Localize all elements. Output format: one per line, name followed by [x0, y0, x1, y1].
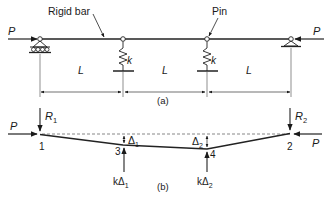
hinge-spring-2: k: [197, 37, 218, 71]
load-arrow-right: P: [295, 25, 324, 39]
load-label-right: P: [313, 25, 321, 37]
caption-a: (a): [157, 95, 169, 106]
hinge-pin-icon: [121, 37, 126, 42]
load-label-left-b: P: [10, 120, 18, 132]
pin-support-icon: [281, 37, 301, 47]
rigid-bar-label: Rigid bar: [48, 5, 91, 17]
span-label-3: L: [246, 64, 252, 76]
node-2-label: 2: [287, 141, 293, 152]
caption-b: (b): [157, 181, 169, 192]
load-label-right-b: P: [312, 137, 320, 149]
load-label-left: P: [8, 25, 16, 37]
spring-2-label: k: [211, 55, 217, 66]
spring-force-2-label: kΔ2: [197, 176, 213, 189]
delta-1-label: Δ1: [128, 134, 139, 148]
load-arrow-right-b: P: [294, 134, 322, 149]
reaction-1-label: R1: [45, 110, 57, 125]
spring-force-1-label: kΔ1: [113, 176, 129, 189]
reaction-r1: R1: [40, 108, 57, 131]
deflection-delta-2: Δ2: [192, 135, 207, 149]
hinge-spring-1: k: [113, 37, 134, 71]
reaction-r2: R2: [290, 108, 307, 130]
load-arrow-left: P: [8, 25, 37, 39]
span-label-1: L: [78, 64, 84, 76]
load-arrow-left-b: P: [8, 120, 37, 134]
node-4-label: 4: [210, 149, 216, 160]
delta-2-label: Δ2: [192, 135, 203, 149]
node-1-label: 1: [39, 141, 45, 152]
callout-pin: Pin: [209, 5, 227, 36]
spring-icon: [203, 48, 211, 65]
structural-diagram: P P k: [0, 0, 330, 202]
reaction-2-label: R2: [295, 110, 307, 125]
panel-b: P P R1 R2 1 3 4 2 Δ1 Δ2: [8, 108, 322, 192]
dimension-lines: L L L: [41, 64, 290, 92]
spring-icon: [119, 48, 127, 65]
pin-label: Pin: [212, 5, 227, 17]
panel-a: P P k: [8, 5, 324, 106]
node-3-label: 3: [115, 146, 121, 157]
deflected-bar: [40, 134, 290, 150]
callout-rigid-bar: Rigid bar: [48, 5, 104, 37]
span-label-2: L: [162, 64, 168, 76]
spring-1-label: k: [127, 55, 133, 66]
hinge-pin-icon: [205, 37, 210, 42]
